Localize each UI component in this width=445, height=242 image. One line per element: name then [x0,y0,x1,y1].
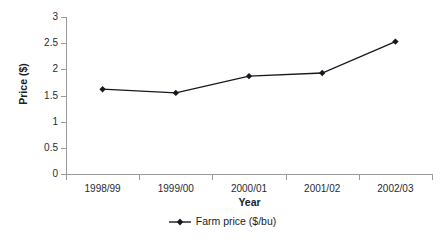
data-point-marker [392,38,398,44]
line-diamond-marker-icon [169,217,191,227]
series-layer [0,0,445,242]
series-line [103,42,396,93]
legend-label: Farm price ($/bu) [196,216,277,227]
chart-legend: Farm price ($/bu) [0,216,445,227]
legend-entry-farm-price: Farm price ($/bu) [169,216,277,227]
data-point-marker [246,73,252,79]
data-point-marker [319,70,325,76]
line-chart: 00.511.522.53 1998/991999/002000/012001/… [0,0,445,242]
data-point-marker [173,90,179,96]
data-point-marker [99,86,105,92]
